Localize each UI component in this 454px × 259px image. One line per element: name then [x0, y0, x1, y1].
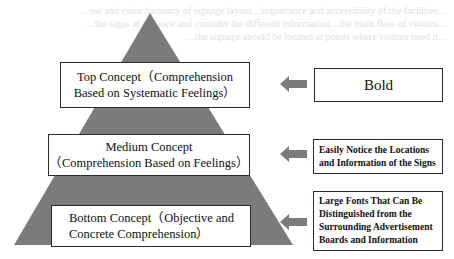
requirement-medium-text: Easily Notice the Locations and Informat…: [319, 144, 436, 169]
requirement-bottom: Large Fonts That Can Be Distinguished fr…: [313, 191, 443, 251]
pyramid-level-medium-label: Medium Concept （Comprehension Based on F…: [49, 139, 249, 171]
requirement-bottom-line: Boards and Information: [319, 234, 433, 247]
requirement-medium-line: and Information of the Signs: [319, 157, 436, 170]
pyramid-level-medium-line2: （Comprehension Based on Feelings）: [49, 155, 249, 171]
arrow-left-icon: [280, 214, 310, 230]
requirement-medium-line: Easily Notice the Locations: [319, 144, 436, 157]
pyramid-level-bottom-line1: Bottom Concept（Objective and: [69, 210, 234, 226]
pyramid-level-top-line2: Based on Systematic Feelings）: [74, 85, 237, 101]
requirement-bottom-text: Large Fonts That Can Be Distinguished fr…: [319, 195, 433, 246]
requirement-medium: Easily Notice the Locations and Informat…: [313, 139, 443, 174]
pyramid-level-bottom-line2: Concrete Comprehension）: [69, 226, 234, 242]
requirement-top: Bold: [314, 68, 443, 102]
pyramid-level-bottom: Bottom Concept（Objective and Concrete Co…: [51, 205, 251, 247]
arrow-left-icon: [280, 146, 310, 162]
arrow-left-icon: [280, 76, 310, 92]
pyramid-level-top-line1: Top Concept（Comprehension: [74, 69, 237, 85]
signage-concept-diagram: …use and color harmony of signage layout…: [0, 0, 454, 259]
requirement-bottom-line: Distinguished from the: [319, 208, 433, 221]
pyramid-level-top: Top Concept（Comprehension Based on Syste…: [60, 62, 250, 108]
pyramid-level-medium: Medium Concept （Comprehension Based on F…: [48, 134, 250, 176]
pyramid-level-bottom-label: Bottom Concept（Objective and Concrete Co…: [69, 210, 234, 242]
requirement-bottom-line: Large Fonts That Can Be: [319, 195, 433, 208]
requirement-top-text: Bold: [364, 79, 393, 92]
requirement-bottom-line: Surrounding Advertisement: [319, 221, 433, 234]
pyramid-level-top-label: Top Concept（Comprehension Based on Syste…: [74, 69, 237, 101]
pyramid-level-medium-line1: Medium Concept: [49, 139, 249, 155]
